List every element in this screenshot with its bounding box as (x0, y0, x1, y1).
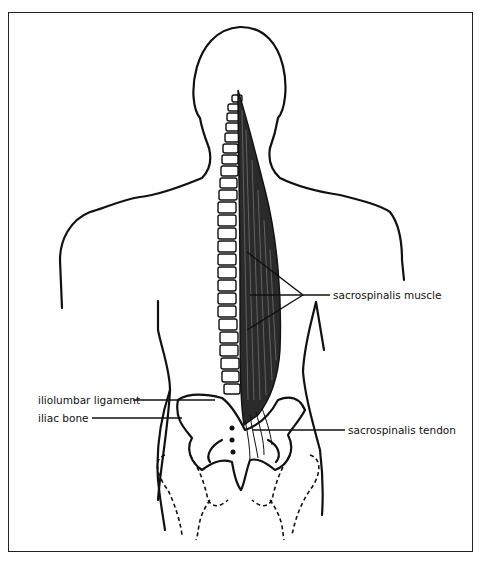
left-shoulder-outline (60, 148, 210, 308)
right-shoulder-outline (269, 148, 404, 280)
pelvis-outline (177, 395, 305, 490)
back-anatomy-illustration (0, 0, 481, 562)
sacrospinalis-muscle (238, 90, 280, 460)
label-sacrospinalis-tendon: sacrospinalis tendon (348, 424, 456, 436)
label-iliolumbar-ligament: iliolumbar ligament (38, 394, 140, 406)
right-femur-dashed (292, 455, 319, 535)
label-iliac-bone: iliac bone (38, 412, 89, 424)
right-torso-outline (303, 302, 323, 515)
label-sacrospinalis-muscle: sacrospinalis muscle (333, 289, 441, 301)
